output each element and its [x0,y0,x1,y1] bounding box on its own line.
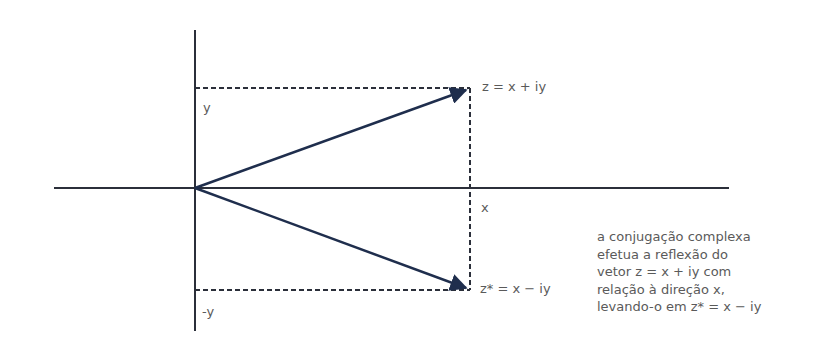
label-neg-y: -y [202,304,214,319]
caption-line: vetor z = x + iy com [597,263,761,281]
caption-line: relação à direção x, [597,281,761,299]
caption-line: a conjugação complexa [597,228,761,246]
vector-z-conjugate [195,188,466,288]
label-z-conjugate: z* = x − iy [480,281,551,296]
label-z: z = x + iy [482,79,546,94]
label-x: x [481,200,489,215]
vector-z [195,90,466,188]
caption-line: efetua a reflexão do [597,246,761,264]
caption-line: levando-o em z* = x − iy [597,298,761,316]
label-y: y [203,100,211,115]
caption: a conjugação complexa efetua a reflexão … [597,228,761,316]
